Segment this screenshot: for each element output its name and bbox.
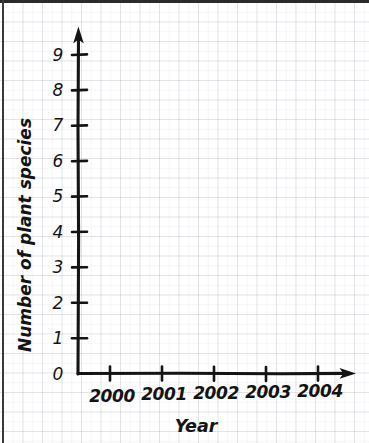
graph-paper-page: 9 8 7 6 5 4 3 2 1 0 Number of plant spec… [0, 0, 369, 443]
y-tick-label-7: 7 [53, 115, 64, 135]
y-axis-group: 9 8 7 6 5 4 3 2 1 0 Number of plant spec… [15, 27, 87, 385]
y-tick-label-2: 2 [53, 293, 64, 313]
y-tick-label-8: 8 [53, 80, 64, 100]
x-tick-label-2003: 2003 [245, 382, 291, 402]
y-tick-label-5: 5 [53, 186, 64, 206]
y-tick-label-3: 3 [53, 257, 64, 277]
x-axis-group: 2000 2001 2002 2003 2004 Year [78, 367, 356, 437]
x-axis-title: Year [175, 416, 219, 436]
y-tick-label-0: 0 [53, 364, 64, 384]
x-tick-label-2002: 2002 [193, 383, 239, 403]
y-tick-label-1: 1 [53, 328, 64, 348]
hand-drawn-chart: 9 8 7 6 5 4 3 2 1 0 Number of plant spec… [0, 0, 369, 443]
x-axis-line [78, 373, 346, 374]
y-tick-label-9: 9 [53, 45, 64, 65]
y-tick-label-6: 6 [53, 151, 64, 171]
y-tick-label-4: 4 [53, 222, 64, 242]
y-tick-8 [72, 90, 87, 91]
x-tick-label-2001: 2001 [141, 384, 187, 404]
x-tick-label-2000: 2000 [89, 386, 135, 406]
y-axis-title: Number of plant species [15, 118, 35, 352]
y-tick-9 [72, 54, 87, 55]
y-axis-line [78, 36, 79, 374]
x-tick-label-2004: 2004 [297, 381, 343, 401]
